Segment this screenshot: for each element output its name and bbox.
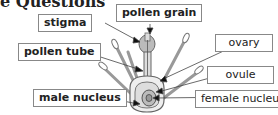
label-ovule: ovule bbox=[207, 66, 274, 84]
label-stigma: stigma bbox=[38, 14, 92, 32]
label-pollen-grain: pollen grain bbox=[116, 4, 202, 22]
label-pollen-tube: pollen tube bbox=[18, 43, 101, 61]
label-female-nucleus: female nucleus bbox=[195, 90, 278, 108]
label-ovary: ovary bbox=[215, 34, 273, 52]
label-male-nucleus: male nucleus bbox=[33, 89, 127, 107]
